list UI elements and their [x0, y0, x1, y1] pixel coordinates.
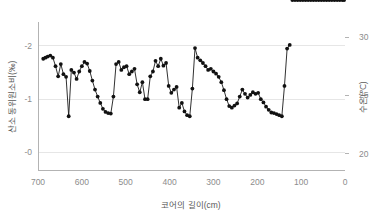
data-point — [59, 62, 63, 66]
data-point — [135, 82, 139, 86]
data-point — [117, 60, 121, 64]
data-point — [214, 72, 218, 76]
data-point — [169, 91, 173, 95]
data-point — [51, 56, 55, 60]
data-point — [217, 75, 221, 79]
y-axis-left-tick-0: -2 — [24, 41, 32, 51]
data-point — [64, 75, 68, 79]
data-point — [283, 84, 287, 88]
data-point — [225, 97, 229, 101]
data-point — [193, 46, 197, 50]
oxygen-isotope-core-chart: -2-1-0 302520 7006005004003002001000 코어의… — [0, 0, 373, 215]
data-point — [285, 47, 289, 51]
data-point — [93, 88, 97, 92]
y-axis-right-title: 수온(℃) — [358, 81, 368, 112]
data-point — [112, 95, 116, 99]
data-point — [98, 101, 102, 105]
data-point — [54, 64, 58, 68]
x-axis-tick-5: 200 — [250, 177, 264, 187]
y-axis-left-tick-2: -0 — [24, 147, 32, 157]
data-point — [238, 95, 242, 99]
data-point — [77, 70, 81, 74]
data-point — [288, 43, 292, 47]
data-point — [156, 64, 160, 68]
data-point — [264, 105, 268, 109]
data-point — [159, 57, 163, 61]
x-axis-title: 코어의 길이(cm) — [161, 200, 221, 210]
data-point — [80, 64, 84, 68]
data-point — [222, 88, 226, 92]
y-axis-right-tick-2: 20 — [359, 149, 369, 159]
data-point — [151, 70, 155, 74]
data-point — [201, 61, 205, 65]
data-point — [235, 102, 239, 106]
data-point — [164, 61, 168, 65]
data-point — [75, 77, 79, 81]
data-point — [177, 106, 181, 110]
data-point — [56, 74, 60, 78]
data-point — [133, 67, 137, 71]
x-axis-tick-3: 400 — [162, 177, 176, 187]
data-point — [85, 62, 89, 66]
data-point — [175, 85, 179, 89]
data-point — [72, 71, 76, 75]
data-point — [240, 88, 244, 92]
x-axis-tick-0: 700 — [31, 177, 45, 187]
data-point — [259, 97, 263, 101]
data-point — [204, 64, 208, 68]
data-point — [148, 74, 152, 78]
y-axis-left-tick-1: -1 — [24, 94, 32, 104]
data-point — [256, 91, 260, 95]
data-point — [183, 110, 187, 114]
data-point — [90, 79, 94, 83]
x-axis-tick-1: 600 — [75, 177, 89, 187]
x-axis-tick-2: 500 — [119, 177, 133, 187]
data-point — [88, 69, 92, 73]
chart-background — [0, 0, 373, 215]
data-point — [109, 112, 113, 116]
data-point — [190, 87, 194, 91]
data-point — [154, 59, 158, 63]
data-point — [262, 100, 266, 104]
x-axis-tick-7: 0 — [343, 177, 348, 187]
data-point — [188, 114, 192, 118]
data-point — [138, 90, 142, 94]
data-point — [67, 114, 71, 118]
data-point — [96, 95, 100, 99]
x-axis-tick-4: 300 — [206, 177, 220, 187]
y-axis-right-tick-0: 30 — [359, 32, 369, 42]
data-point — [243, 92, 247, 96]
chart-canvas: -2-1-0 302520 7006005004003002001000 코어의… — [0, 0, 373, 215]
data-point — [101, 107, 105, 111]
y-axis-left-title: 산소 동위원소비(‰) — [7, 61, 17, 134]
data-point — [140, 80, 144, 84]
data-point — [219, 80, 223, 84]
data-point — [180, 101, 184, 105]
data-point — [280, 114, 284, 118]
data-point — [125, 64, 129, 68]
x-axis-tick-6: 100 — [294, 177, 308, 187]
data-point — [167, 84, 171, 88]
data-point — [146, 97, 150, 101]
